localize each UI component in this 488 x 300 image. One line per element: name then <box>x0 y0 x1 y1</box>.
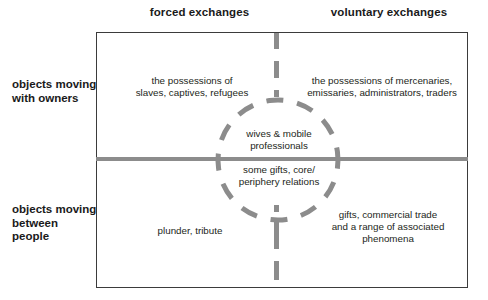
cell-text-line: slaves, captives, refugees <box>112 87 272 99</box>
cell-text-top-right: the possessions of mercenaries, emissari… <box>292 75 472 99</box>
cell-text-line: phenomena <box>306 233 470 245</box>
cell-text-line: emissaries, administrators, traders <box>292 87 472 99</box>
cell-text-circle-upper: wives & mobile professionals <box>222 128 336 152</box>
cell-text-line: the possessions of mercenaries, <box>292 75 472 87</box>
cell-text-bottom-left: plunder, tribute <box>130 225 250 237</box>
dash-segment <box>274 261 279 280</box>
cell-text-line: gifts, commercial trade <box>306 209 470 221</box>
exchange-typology-diagram: forced exchanges voluntary exchanges obj… <box>0 0 488 300</box>
column-header-forced-exchanges: forced exchanges <box>122 6 277 18</box>
row-label-line: objects moving <box>12 78 96 92</box>
cell-text-bottom-right: gifts, commercial trade and a range of a… <box>306 209 470 246</box>
cell-text-top-left: the possessions of slaves, captives, ref… <box>112 75 272 99</box>
row-label-line: between <box>12 217 96 231</box>
dashed-circle-overlap-region <box>212 94 344 226</box>
row-label-objects-moving-with-owners: objects moving with owners <box>12 78 96 105</box>
cell-text-line: wives & mobile <box>222 128 336 140</box>
cell-text-line: and a range of associated <box>306 221 470 233</box>
column-header-voluntary-exchanges: voluntary exchanges <box>310 6 468 18</box>
cell-text-line: the possessions of <box>112 75 272 87</box>
cell-text-line: plunder, tribute <box>130 225 250 237</box>
row-label-objects-moving-between-people: objects moving between people <box>12 203 96 244</box>
cell-text-line: some gifts, core/ <box>222 164 336 176</box>
dash-segment <box>274 61 279 78</box>
row-label-line: objects moving <box>12 203 96 217</box>
row-label-line: people <box>12 230 96 244</box>
cell-text-circle-lower: some gifts, core/ periphery relations <box>222 164 336 188</box>
row-label-line: with owners <box>12 92 96 106</box>
dash-segment <box>274 33 279 49</box>
cell-text-line: professionals <box>222 140 336 152</box>
cell-text-line: periphery relations <box>222 176 336 188</box>
dashed-circle-icon <box>212 94 344 226</box>
